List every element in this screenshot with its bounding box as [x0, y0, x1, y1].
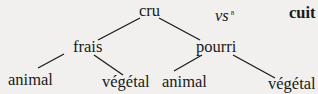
contrast-marker: vs8	[215, 4, 234, 25]
footnote-mark: 8	[231, 9, 235, 17]
leaf-frais-animal: animal	[8, 71, 53, 89]
edge-pourri-animal	[174, 55, 202, 71]
node-root: cru	[139, 2, 160, 20]
leaf-frais-vegetal: végétal	[102, 73, 150, 91]
edge-cru-pourri	[159, 18, 200, 40]
edge-frais-animal	[38, 54, 64, 68]
leaf-pourri-vegetal: végétal	[268, 75, 316, 93]
node-frais: frais	[73, 38, 102, 56]
leaf-pourri-animal: animal	[162, 73, 207, 91]
edge-cru-frais	[98, 18, 140, 40]
node-pourri: pourri	[196, 38, 236, 56]
vs-text: vs	[215, 6, 229, 25]
node-contrast-term: cuit	[289, 4, 316, 22]
